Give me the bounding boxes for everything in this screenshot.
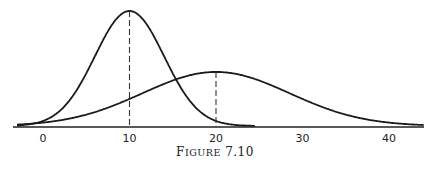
x-tick-label: 0 xyxy=(40,132,47,145)
wide-curve xyxy=(17,72,424,125)
x-tick-label: 10 xyxy=(123,132,137,145)
normal-curves-figure: 010203040 FIGURE 7.10 xyxy=(0,0,430,170)
x-tick-label: 30 xyxy=(296,132,310,145)
x-tick-labels: 010203040 xyxy=(40,132,397,145)
narrow-curve xyxy=(17,11,255,126)
figure-caption: FIGURE 7.10 xyxy=(176,145,254,159)
x-tick-label: 20 xyxy=(209,132,223,145)
x-tick-label: 40 xyxy=(382,132,396,145)
